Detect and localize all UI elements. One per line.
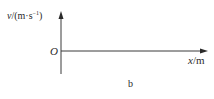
velocity-position-diagram: v/(m·s−1) O x/m b bbox=[0, 0, 214, 99]
figure-caption: b bbox=[128, 79, 133, 89]
y-axis-arrow-icon bbox=[59, 11, 64, 19]
y-axis-label: v/(m·s−1) bbox=[7, 10, 42, 21]
x-axis-unit: /m bbox=[193, 54, 205, 66]
y-axis-unit-close: ) bbox=[39, 10, 42, 21]
x-axis-arrow-icon bbox=[200, 49, 208, 54]
origin-label: O bbox=[50, 46, 58, 57]
y-axis-unit: /(m·s bbox=[11, 10, 32, 21]
x-axis-label: x/m bbox=[188, 55, 205, 66]
